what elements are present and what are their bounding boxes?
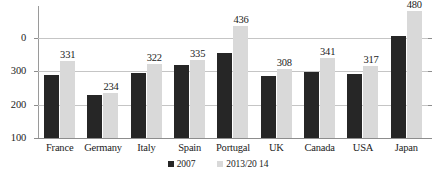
ytick-label-200: 200	[0, 100, 26, 110]
bar-value-label: 480	[392, 0, 436, 10]
category-label: Portugal	[211, 141, 254, 157]
bar-2013-2014[interactable]	[233, 26, 248, 138]
bar-2007[interactable]	[304, 72, 319, 138]
category-axis-labels: FranceGermanyItalySpainPortugalUKCanadaU…	[38, 141, 428, 157]
bar-2007[interactable]	[261, 76, 276, 138]
bar-2013-2014[interactable]	[277, 69, 292, 138]
bar-2007[interactable]	[391, 36, 406, 138]
ytick-right-100	[428, 138, 432, 139]
bar-pair	[168, 0, 211, 138]
category-label: USA	[341, 141, 384, 157]
dark-swatch-icon	[168, 161, 174, 167]
bar-group: 436	[211, 0, 254, 139]
bar-pair	[81, 0, 124, 138]
bar-2013-2014[interactable]	[407, 11, 422, 138]
bar-2013-2014[interactable]	[60, 61, 75, 138]
bar-pair	[385, 0, 428, 138]
category-label: Germany	[81, 141, 124, 157]
bar-group: 308	[255, 0, 298, 139]
bar-2007[interactable]	[347, 74, 362, 138]
category-label: Spain	[168, 141, 211, 157]
ytick-right-200	[428, 105, 432, 106]
bar-pair	[255, 0, 298, 138]
plot-area: 0 300 200 100 33123432233543630834131748…	[38, 0, 428, 139]
category-label: France	[38, 141, 81, 157]
bar-2007[interactable]	[87, 95, 102, 138]
bar-2007[interactable]	[44, 75, 59, 138]
ytick-label-300: 300	[0, 66, 26, 76]
bar-pair	[298, 0, 341, 138]
bar-group: 335	[168, 0, 211, 139]
bar-2007[interactable]	[131, 73, 146, 138]
legend-label-2007: 2007	[177, 159, 196, 169]
ytick-label-400: 0	[0, 33, 26, 43]
bar-pair	[125, 0, 168, 138]
bar-group: 234	[81, 0, 124, 139]
bar-group: 322	[125, 0, 168, 139]
ytick-label-100: 100	[0, 133, 26, 143]
category-label: Italy	[125, 141, 168, 157]
legend-item-2007[interactable]: 2007	[168, 159, 196, 169]
category-label: UK	[255, 141, 298, 157]
bar-chart: 0 300 200 100 33123432233543630834131748…	[0, 0, 436, 176]
bar-pair	[341, 0, 384, 138]
legend-item-2013-2014[interactable]: 2013/20 14	[217, 159, 268, 169]
light-swatch-icon	[217, 161, 223, 167]
ytick-right-400	[428, 38, 432, 39]
bar-2007[interactable]	[174, 65, 189, 138]
bar-group: 341	[298, 0, 341, 139]
bar-pair	[38, 0, 81, 138]
bar-groups: 331234322335436308341317480	[38, 0, 428, 139]
bar-2013-2014[interactable]	[320, 58, 335, 138]
bar-group: 480	[385, 0, 428, 139]
bar-2013-2014[interactable]	[190, 60, 205, 138]
category-label: Canada	[298, 141, 341, 157]
ytick-right-300	[428, 71, 432, 72]
bar-2013-2014[interactable]	[147, 64, 162, 138]
legend-label-2013-2014: 2013/20 14	[226, 159, 268, 169]
chart-legend: 2007 2013/20 14	[0, 159, 436, 169]
category-label: Japan	[385, 141, 428, 157]
bar-group: 317	[341, 0, 384, 139]
bar-group: 331	[38, 0, 81, 139]
bar-2013-2014[interactable]	[103, 93, 118, 138]
bar-2013-2014[interactable]	[363, 66, 378, 138]
bar-2007[interactable]	[217, 53, 232, 138]
